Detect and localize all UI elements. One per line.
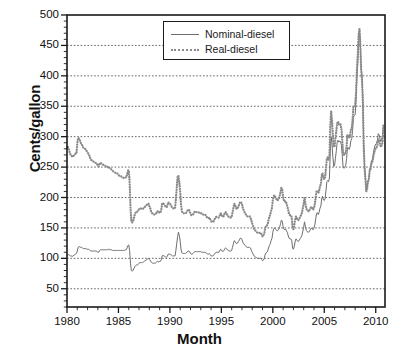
legend-entry-real: Real-diesel — [171, 43, 289, 57]
series-line-real — [67, 29, 383, 236]
legend-entry-nominal: Nominal-diesel — [171, 28, 289, 42]
legend-key-solid-line-icon — [171, 34, 199, 37]
y-tick-label: 100 — [25, 251, 59, 263]
gridlines — [67, 45, 385, 288]
x-tick-label: 1990 — [150, 315, 190, 327]
x-tick-label: 1995 — [201, 315, 241, 327]
x-tick-label: 2000 — [253, 315, 293, 327]
x-tick-label: 1980 — [47, 315, 87, 327]
x-tick-label: 2010 — [356, 315, 396, 327]
y-tick-label: 150 — [25, 221, 59, 233]
y-tick-label: 350 — [25, 99, 59, 111]
x-tick-label: 2005 — [304, 315, 344, 327]
series-line-nominal — [67, 29, 383, 271]
chart-legend: Nominal-diesel Real-diesel — [163, 21, 290, 60]
y-tick-label: 500 — [25, 8, 59, 20]
y-tick-label: 250 — [25, 160, 59, 172]
y-tick-label: 50 — [25, 282, 59, 294]
legend-label-nominal: Nominal-diesel — [205, 28, 274, 40]
diesel-price-chart: Cents/gallon Month Nominal-diesel Real-d… — [0, 0, 399, 356]
legend-label-real: Real-diesel — [205, 43, 258, 55]
y-tick-label: 300 — [25, 130, 59, 142]
legend-key-dotted-line-icon — [171, 49, 199, 53]
y-tick-label: 450 — [25, 38, 59, 50]
data-series — [67, 29, 383, 271]
y-tick-label: 400 — [25, 69, 59, 81]
x-tick-label: 1985 — [98, 315, 138, 327]
y-tick-label: 200 — [25, 191, 59, 203]
